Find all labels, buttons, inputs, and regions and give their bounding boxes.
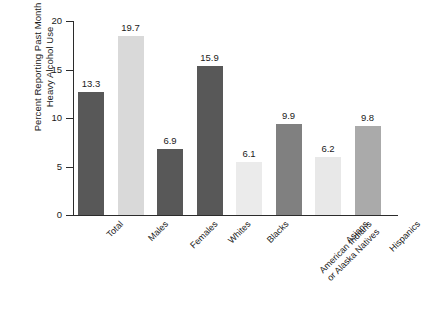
bar-value-label: 9.9 xyxy=(267,110,311,121)
bar xyxy=(236,162,262,215)
x-axis-label: Males xyxy=(146,219,171,244)
x-axis-label-line: Blacks xyxy=(265,219,292,246)
bar-value-label: 19.7 xyxy=(109,22,153,33)
y-tick-label-0: 0 xyxy=(40,209,62,220)
bar xyxy=(118,36,144,215)
x-axis-line xyxy=(73,215,398,216)
bar-group: 9.8 xyxy=(355,21,381,215)
x-axis-label: Total xyxy=(105,219,126,240)
bar-value-label: 6.2 xyxy=(306,143,350,154)
y-tick-label-10: 10 xyxy=(40,112,62,123)
bar-group: 9.9 xyxy=(276,21,302,215)
bar-value-label: 13.3 xyxy=(69,78,113,89)
x-axis-label: Hispanics xyxy=(387,219,422,254)
bar-value-label: 15.9 xyxy=(188,52,232,63)
bar xyxy=(276,124,302,215)
y-tick-label-15: 15 xyxy=(40,64,62,75)
x-axis-label-line: Females xyxy=(188,219,220,251)
bar-value-label: 6.1 xyxy=(227,148,271,159)
bar-group: 6.1 xyxy=(236,21,262,215)
y-tick-label-5: 5 xyxy=(40,161,62,172)
bar xyxy=(355,126,381,215)
x-axis-label-line: Males xyxy=(146,219,171,244)
y-tick-5 xyxy=(66,167,73,168)
bar xyxy=(157,149,183,215)
plot-area: 13.319.76.915.96.19.96.29.8 xyxy=(74,21,398,215)
bar-value-label: 6.9 xyxy=(148,135,192,146)
x-axis-label-line: Total xyxy=(105,219,126,240)
y-tick-15 xyxy=(66,70,73,71)
x-axis-label-line: Whites xyxy=(226,219,253,246)
y-tick-label-20: 20 xyxy=(40,15,62,26)
bar-group: 13.3 xyxy=(78,21,104,215)
y-tick-10 xyxy=(66,118,73,119)
bar-group: 15.9 xyxy=(197,21,223,215)
bar xyxy=(197,66,223,215)
x-axis-label-line: Hispanics xyxy=(387,219,422,254)
x-axis-label: American Indiansor Alaska Natives xyxy=(317,219,382,284)
y-tick-0 xyxy=(66,215,73,216)
bar xyxy=(78,92,104,215)
x-axis-label: Blacks xyxy=(265,219,292,246)
bar-group: 6.9 xyxy=(157,21,183,215)
y-tick-20 xyxy=(66,21,73,22)
bar-group: 6.2 xyxy=(315,21,341,215)
bar-group: 19.7 xyxy=(118,21,144,215)
x-axis-label: Whites xyxy=(226,219,253,246)
bar xyxy=(315,157,341,215)
bar-value-label: 9.8 xyxy=(346,112,390,123)
x-axis-label: Females xyxy=(188,219,220,251)
